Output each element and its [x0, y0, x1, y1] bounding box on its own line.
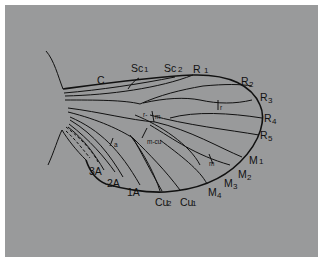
label-r4: R 4	[264, 112, 277, 126]
vein-r4	[170, 113, 262, 118]
label-cu1: Cu 1	[180, 196, 197, 208]
svg-text:4: 4	[272, 117, 277, 126]
label-2a: 2A	[107, 177, 120, 189]
label-3a: 3A	[89, 165, 102, 177]
svg-text:M: M	[249, 154, 258, 166]
label-cu2: Cu 2	[155, 196, 172, 208]
label-m3: M 3	[224, 177, 238, 191]
label-r1: R 1	[193, 63, 209, 75]
svg-text:4: 4	[217, 191, 222, 200]
crossvein-label-r-m-right: m	[155, 113, 160, 120]
svg-text:M: M	[208, 186, 217, 198]
svg-text:Sc: Sc	[164, 62, 176, 74]
label-c: C	[97, 74, 105, 86]
label-m2: M 2	[238, 168, 252, 182]
svg-text:1: 1	[144, 65, 149, 74]
svg-text:3: 3	[233, 182, 238, 191]
vein-anal-dashed-1	[66, 127, 98, 162]
label-r2: R 2	[241, 75, 254, 89]
svg-text:1: 1	[192, 199, 197, 208]
svg-text:2: 2	[167, 199, 172, 208]
svg-text:2: 2	[178, 65, 183, 74]
label-r3: R 3	[260, 91, 273, 105]
vein-cu-fork	[133, 138, 162, 191]
crossvein-a	[110, 138, 113, 146]
svg-text:1: 1	[259, 157, 264, 166]
wing-diagram: r r- m m-cu m a C Sc 1 Sc 2 R 1 R 2 R 3 …	[0, 0, 323, 264]
crossvein-label-a: a	[114, 141, 118, 148]
crossvein-m-cu	[142, 128, 147, 138]
svg-text:R: R	[260, 91, 268, 103]
crossvein-label-m-cu: m-cu	[147, 138, 162, 145]
vein-m4	[160, 140, 207, 184]
svg-text:R: R	[241, 75, 249, 87]
svg-text:Sc: Sc	[131, 62, 143, 74]
crossvein-label-r-m-left: r-	[143, 111, 147, 118]
svg-text:2: 2	[247, 173, 252, 182]
vein-m3	[150, 125, 230, 165]
svg-text:M: M	[238, 168, 247, 180]
svg-text:1: 1	[204, 66, 209, 75]
svg-text:3: 3	[268, 96, 273, 105]
svg-text:R: R	[193, 63, 201, 75]
thorax-upper-outline	[46, 51, 63, 89]
svg-text:R: R	[264, 112, 272, 124]
svg-text:5: 5	[268, 134, 273, 143]
vein-r2r3	[143, 98, 252, 103]
label-1a: 1A	[127, 186, 140, 198]
crossvein-label-r: r	[220, 104, 223, 111]
thorax-lower-outline	[48, 130, 86, 165]
crossvein-label-m: m	[209, 160, 214, 167]
svg-text:M: M	[224, 177, 233, 189]
label-sc1: Sc 1	[131, 62, 149, 74]
svg-text:2: 2	[249, 80, 254, 89]
label-m4: M 4	[208, 186, 222, 200]
label-sc2: Sc 2	[164, 62, 183, 74]
svg-text:R: R	[260, 129, 268, 141]
label-m1: M 1	[249, 154, 264, 166]
label-r5: R 5	[260, 129, 273, 143]
